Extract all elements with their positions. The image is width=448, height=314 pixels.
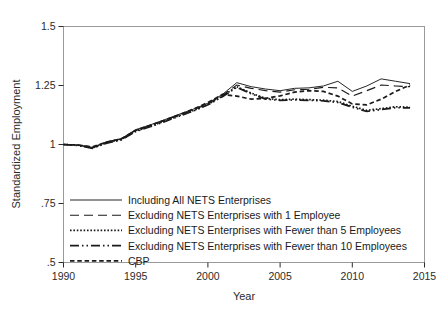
legend-label: Including All NETS Enterprises (128, 194, 271, 206)
x-tick-label: 2010 (341, 270, 365, 282)
y-tick-label: .5 (47, 256, 56, 268)
y-tick-label: .75 (41, 197, 56, 209)
y-axis-title: Standardized Employment (10, 79, 22, 208)
y-tick-label: 1.5 (41, 20, 56, 32)
line-chart: .5.7511.251.5 199019952000200520102015 I… (0, 0, 448, 314)
chart-figure: .5.7511.251.5 199019952000200520102015 I… (0, 0, 448, 314)
y-tick-label: 1 (50, 138, 56, 150)
legend-label: Excluding NETS Enterprises with Fewer th… (128, 240, 407, 252)
x-tick-label: 2005 (268, 270, 292, 282)
y-tick-label: 1.25 (35, 79, 56, 91)
legend-label: Excluding NETS Enterprises with 1 Employ… (128, 209, 341, 221)
x-tick-label: 2015 (413, 270, 437, 282)
x-tick-label: 1995 (124, 270, 148, 282)
legend-label: CBP (128, 255, 150, 267)
x-axis-title: Year (233, 290, 256, 302)
x-tick-label: 2000 (196, 270, 220, 282)
chart-background (0, 0, 448, 314)
x-tick-label: 1990 (52, 270, 76, 282)
legend-label: Excluding NETS Enterprises with Fewer th… (128, 224, 401, 236)
